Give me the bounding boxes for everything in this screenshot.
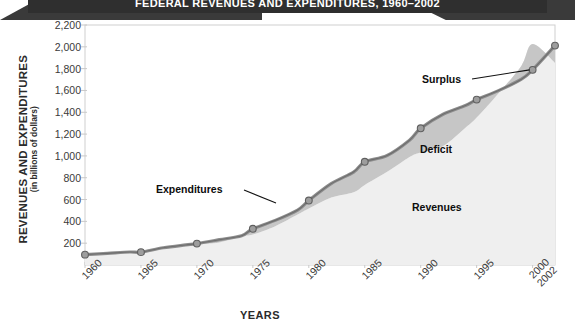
x-tick-label: 1995 — [471, 256, 496, 281]
x-tick-label: 1990 — [415, 256, 440, 281]
x-axis-tick-labels: 1960196519701975198019851990199520002002 — [0, 20, 575, 332]
chart-figure: REVENUES AND EXPENDITURES (in billions o… — [0, 20, 575, 332]
x-tick-label: 1975 — [247, 256, 272, 281]
banner-title: FEDERAL REVENUES AND EXPENDITURES, 1960–… — [28, 0, 547, 9]
x-axis-title: YEARS — [240, 309, 280, 321]
x-tick-label: 1980 — [303, 256, 328, 281]
x-tick-label: 1960 — [79, 256, 104, 281]
x-tick-label: 1970 — [191, 256, 216, 281]
title-banner: FEDERAL REVENUES AND EXPENDITURES, 1960–… — [0, 0, 575, 20]
x-tick-label-2000-2002: 20002002 — [527, 256, 559, 288]
x-tick-label: 1965 — [135, 256, 160, 281]
x-tick-label: 1985 — [359, 256, 384, 281]
